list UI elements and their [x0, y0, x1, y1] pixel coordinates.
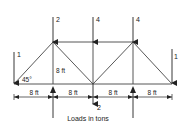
diagonal-2	[53, 42, 93, 84]
angle-label: 45°	[22, 76, 32, 83]
truss-members	[14, 42, 172, 84]
load-label-bottom-middle: 2	[97, 104, 101, 111]
load-label-top-middle: 4	[96, 16, 100, 23]
top-loads	[53, 17, 133, 42]
support-arrow-left-icon	[50, 86, 56, 93]
span-label-2: 8 ft	[68, 89, 77, 96]
caption: Loads in tons	[67, 115, 109, 122]
truss-diagram: 2 4 4 1 1 45° 8 ft 2 8 ft 8 ft 8 ft 8 ft…	[0, 0, 189, 129]
support-arrow-right-icon	[130, 86, 136, 93]
load-label-right-end: 1	[174, 53, 178, 60]
span-label-4: 8 ft	[147, 89, 156, 96]
diagonal-3	[93, 42, 133, 84]
load-label-top-left: 2	[56, 16, 60, 23]
left-diagonal	[14, 42, 53, 84]
span-label-1: 8 ft	[29, 89, 38, 96]
load-label-left-end: 1	[17, 51, 21, 58]
load-label-top-right: 4	[136, 16, 140, 23]
span-label-3: 8 ft	[108, 89, 117, 96]
right-diagonal	[133, 42, 172, 84]
height-label: 8 ft	[56, 67, 65, 74]
